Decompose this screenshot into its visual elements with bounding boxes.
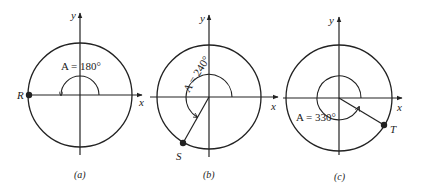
caption: (a) <box>74 169 86 181</box>
terminal-side <box>339 98 384 125</box>
figure-container: R x y A = 180° (a) S x y A = 240° (b) T … <box>0 0 421 194</box>
point-label: R <box>16 89 24 101</box>
point-marker <box>26 92 32 98</box>
figure-c: T x y A = 330° (c) <box>283 14 402 183</box>
figure-b: S x y A = 240° (b) <box>150 12 278 181</box>
point-label: T <box>390 123 397 135</box>
y-axis-label: y <box>199 12 205 24</box>
caption: (b) <box>203 169 215 181</box>
x-axis-label: x <box>270 100 276 112</box>
caption: (c) <box>334 171 346 183</box>
figure-a: R x y A = 180° (a) <box>16 9 144 181</box>
angle-diagrams: R x y A = 180° (a) S x y A = 240° (b) T … <box>0 0 421 194</box>
angle-label: A = 180° <box>61 60 101 72</box>
point-marker <box>180 140 186 146</box>
point-label: S <box>176 150 182 162</box>
angle-label: A = 330° <box>296 111 336 123</box>
y-axis-label: y <box>70 9 76 21</box>
point-marker <box>381 122 387 128</box>
x-axis-label: x <box>396 101 402 113</box>
x-axis-label: x <box>138 96 144 108</box>
y-axis-label: y <box>328 14 334 26</box>
